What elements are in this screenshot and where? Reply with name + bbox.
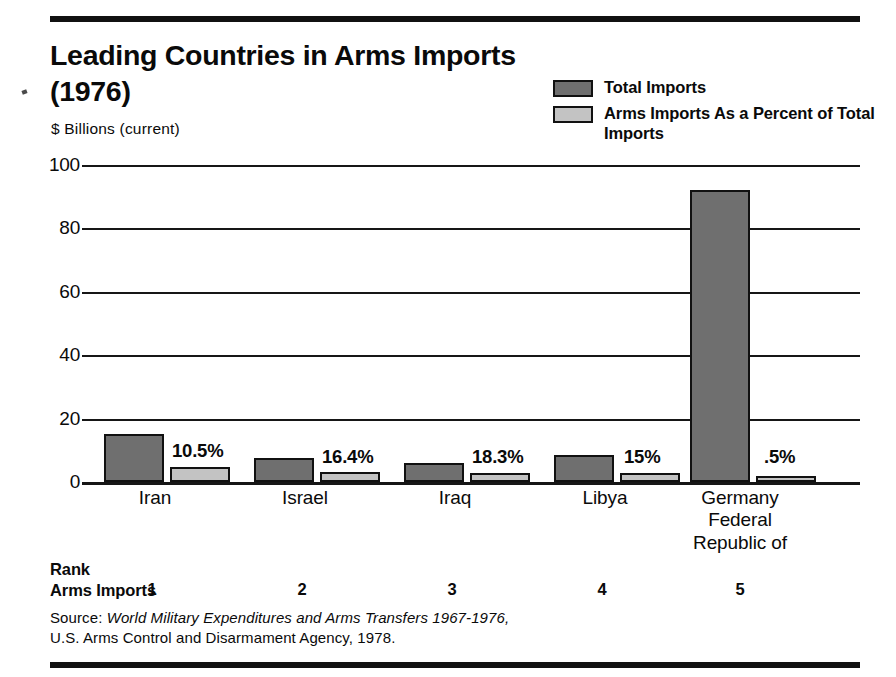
- x-axis-label-germany: Germany Federal Republic of: [660, 487, 820, 554]
- y-tick-label-80: 80: [36, 217, 80, 239]
- figure-root: Leading Countries in Arms Imports (1976)…: [0, 0, 896, 677]
- data-label-iran: 10.5%: [172, 440, 223, 462]
- x-axis-label-iraq: Iraq: [375, 487, 535, 509]
- data-label-iraq: 18.3%: [472, 446, 523, 468]
- rank-value-israel: 2: [272, 580, 332, 599]
- bottom-rule: [50, 662, 860, 668]
- bar-percent-libya: [620, 473, 680, 482]
- y-tick-label-20: 20: [36, 408, 80, 430]
- bar-total-israel: [254, 458, 314, 482]
- bar-total-libya: [554, 455, 614, 482]
- source-publication-title: World Military Expenditures and Arms Tra…: [107, 609, 510, 626]
- bar-total-iraq: [404, 463, 464, 482]
- bar-percent-iran: [170, 467, 230, 482]
- y-tick-label-100: 100: [36, 154, 80, 176]
- y-tick-label-0: 0: [36, 471, 80, 493]
- bar-total-germany: [690, 190, 750, 482]
- data-label-libya: 15%: [624, 446, 660, 468]
- source-agency: U.S. Arms Control and Disarmament Agency…: [50, 629, 395, 646]
- bar-total-iran: [104, 434, 164, 482]
- rank-value-germany: 5: [710, 580, 770, 599]
- y-tick-label-40: 40: [36, 344, 80, 366]
- data-label-israel: 16.4%: [322, 446, 373, 468]
- plot-area: 100 80 60 40 20 0 10.5% Iran 16.4% Israe…: [0, 0, 896, 500]
- source-note: Source: World Military Expenditures and …: [50, 608, 750, 649]
- x-axis-baseline: [82, 482, 860, 485]
- bar-percent-germany: [756, 476, 816, 482]
- y-tick-label-60: 60: [36, 281, 80, 303]
- rank-heading-line-1: Rank: [50, 559, 156, 580]
- bar-percent-iraq: [470, 473, 530, 482]
- rank-value-iran: 1: [122, 580, 182, 599]
- x-axis-label-israel: Israel: [225, 487, 385, 509]
- gridline-100: [82, 165, 860, 167]
- bar-percent-israel: [320, 472, 380, 482]
- source-prefix: Source:: [50, 609, 107, 626]
- rank-value-iraq: 3: [422, 580, 482, 599]
- x-axis-label-iran: Iran: [75, 487, 235, 509]
- data-label-germany: .5%: [764, 446, 795, 468]
- rank-value-libya: 4: [572, 580, 632, 599]
